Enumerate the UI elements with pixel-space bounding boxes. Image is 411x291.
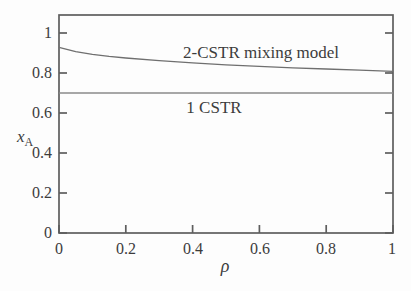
y-axis-label-base: x xyxy=(17,127,25,146)
y-tick-label-0-8: 0.8 xyxy=(18,64,52,82)
series-annotation-1cstr: 1 CSTR xyxy=(154,98,274,117)
y-axis-label: xA xyxy=(17,127,33,150)
x-axis-label: ρ xyxy=(205,256,245,277)
y-tick-label-0-2: 0.2 xyxy=(18,184,52,202)
x-tick-label-0: 0 xyxy=(39,240,79,258)
x-tick-label-0-8: 0.8 xyxy=(306,240,346,258)
x-tick-label-0-6: 0.6 xyxy=(240,240,280,258)
series-annotation-2cstr: 2-CSTR mixing model xyxy=(151,43,371,62)
figure: 1 0.8 0.6 0.4 0.2 0 0 0.2 0.4 0.6 0.8 1 … xyxy=(0,0,411,291)
x-tick-label-1: 1 xyxy=(372,240,411,258)
y-tick-label-0-6: 0.6 xyxy=(18,104,52,122)
y-axis-label-sub: A xyxy=(25,135,34,149)
y-tick-label-1: 1 xyxy=(18,24,52,42)
x-tick-label-0-2: 0.2 xyxy=(106,240,146,258)
